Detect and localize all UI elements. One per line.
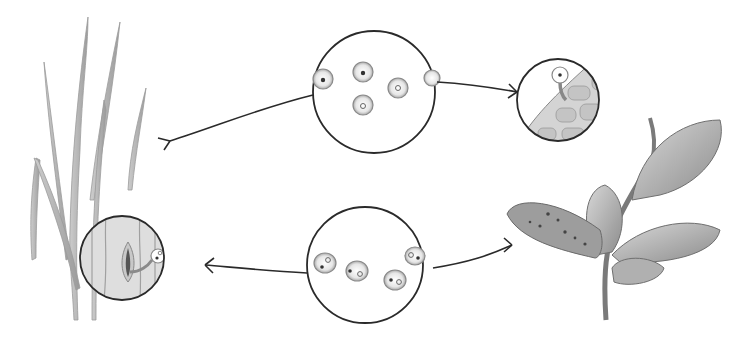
arrow-to-bottom-spores xyxy=(433,238,512,268)
spores-top-magnified xyxy=(313,31,440,153)
arrow-to-grass-stomata xyxy=(205,258,307,273)
spores-bottom-magnified xyxy=(307,207,425,323)
arrow-to-grass xyxy=(158,95,313,150)
leaf-cells-magnified xyxy=(517,55,620,150)
arrow-to-leaf-cells xyxy=(437,82,517,98)
life-cycle-diagram xyxy=(0,0,743,345)
broadleaf-host-illustration xyxy=(507,118,721,320)
